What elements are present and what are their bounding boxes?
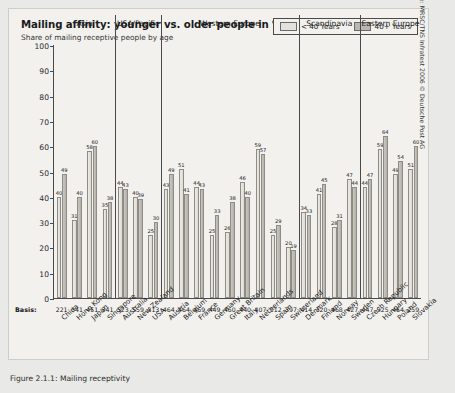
bar-old [215,215,220,298]
group-label-eastern-europe: Eastern Europe [361,19,419,28]
bar-old [368,179,373,298]
bar-pair: 3433 [301,45,311,298]
bar-young [393,174,398,298]
bar-old [352,187,357,298]
chart-panel: Mailing affinity: younger vs. older peop… [8,8,429,360]
bar-old [93,146,98,298]
bar-pair: 2533 [210,45,220,298]
y-axis-tick-label: 90 [23,67,49,76]
bar-old [62,174,67,298]
bar-pair: 2019 [286,45,296,298]
group-label-usa-pacific: USA/Pacific [117,19,159,28]
bar-young [317,194,322,298]
bar-old [230,202,235,298]
bar-value-label: 38 [107,195,114,201]
bar-young [301,212,306,298]
bar-value-label: 60 [92,139,99,145]
bar-pair: 3538 [103,45,113,298]
bar-value-label: 38 [229,195,236,201]
bar-pair: 4744 [347,45,357,298]
bar-value-label: 43 [122,182,129,188]
bar-value-label: 49 [61,167,68,173]
bar-old [398,161,403,298]
group-label-asia: Asia [77,19,93,28]
bar-old [200,189,205,298]
bar-young [271,235,276,298]
bar-series-container: 4049314058603538444340392530434951414443… [54,45,421,298]
bar-pair: 2831 [332,45,342,298]
bar-pair: 4447 [363,45,373,298]
y-axis-tick-mark [50,299,54,300]
bar-young [57,197,62,298]
bar-value-label: 40 [244,190,251,196]
bar-pair: 5964 [378,45,388,298]
bar-value-label: 33 [214,208,221,214]
basis-row-label: Basis: [15,306,37,314]
bar-pair: 5957 [256,45,266,298]
y-axis-tick-label: 80 [23,92,49,101]
bar-old [77,197,82,298]
bar-value-label: 45 [321,177,328,183]
y-axis-tick-label: 10 [23,269,49,278]
bar-young [210,235,215,298]
bar-value-label: 46 [239,175,246,181]
bar-value-label: 49 [168,167,175,173]
bar-old [123,189,128,298]
bar-young [133,197,138,298]
bar-pair: 4443 [194,45,204,298]
bar-value-label: 57 [260,147,267,153]
bar-value-label: 47 [346,172,353,178]
bar-old [261,154,266,298]
y-axis-tick-label: 100 [23,42,49,51]
chart-page: Mailing affinity: younger vs. older peop… [0,0,455,393]
bar-young [164,189,169,298]
y-axis-tick-label: 60 [23,143,49,152]
bar-young [378,149,383,298]
bar-pair: 4954 [393,45,403,298]
bar-young [240,182,245,298]
bar-pair: 3140 [72,45,82,298]
plot-area: 0102030405060708090100 AsiaUSA/PacificWe… [53,45,421,299]
bar-old [184,194,189,298]
bar-young [332,227,337,298]
bar-old [383,136,388,298]
bar-old [307,215,312,298]
bar-value-label: 40 [76,190,83,196]
bar-old [154,222,159,298]
bar-young [408,169,413,298]
bar-value-label: 54 [397,154,404,160]
y-axis-tick-label: 30 [23,219,49,228]
group-label-western-europe: Western Europe [200,19,260,28]
bar-pair: 2529 [271,45,281,298]
bar-value-label: 64 [382,129,389,135]
bar-old [322,184,327,298]
y-axis-tick-label: 70 [23,117,49,126]
bar-young [225,232,230,298]
bar-pair: 2530 [148,45,158,298]
bar-young [347,179,352,298]
bar-pair: 4145 [317,45,327,298]
bar-pair: 4443 [118,45,128,298]
bar-value-label: 47 [367,172,374,178]
bar-pair: 4349 [164,45,174,298]
bar-value-label: 30 [153,215,160,221]
bar-value-label: 44 [351,180,358,186]
bar-pair: 5141 [179,45,189,298]
bar-old [276,225,281,298]
bar-young [194,187,199,298]
figure-caption: Figure 2.1.1: Mailing receptivity [10,374,130,383]
y-axis-tick-label: 40 [23,193,49,202]
bar-old [245,197,250,298]
bar-value-label: 39 [137,192,144,198]
bar-young [118,187,123,298]
bar-pair: 4049 [57,45,67,298]
bar-pair: 5860 [87,45,97,298]
bar-young [72,220,77,298]
bar-young [363,187,368,298]
bar-pair: 4640 [240,45,250,298]
bar-old [108,202,113,298]
bar-young [256,149,261,298]
group-label-scandinavia: Scandinavia [306,19,352,28]
bar-value-label: 31 [336,213,343,219]
bar-value-label: 41 [183,187,190,193]
